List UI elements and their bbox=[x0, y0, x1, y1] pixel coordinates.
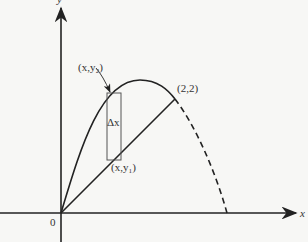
upper-curve bbox=[61, 80, 175, 213]
area-between-curves-diagram: (x,y₂) (x,y₁) (2,2) Δx 0 x y bbox=[0, 0, 308, 242]
upper-point-label: (x,y₂) bbox=[78, 61, 103, 74]
lower-point-label: (x,y₁) bbox=[111, 161, 136, 174]
diagram-canvas: (x,y₂) (x,y₁) (2,2) Δx 0 x y bbox=[0, 0, 308, 242]
x-axis-label: x bbox=[299, 207, 305, 219]
y-axis-label: y bbox=[56, 0, 62, 5]
strip-width-label: Δx bbox=[107, 116, 120, 128]
upper-curve-dashed bbox=[175, 99, 227, 213]
intersection-label: (2,2) bbox=[177, 82, 198, 95]
origin-label: 0 bbox=[50, 216, 56, 228]
